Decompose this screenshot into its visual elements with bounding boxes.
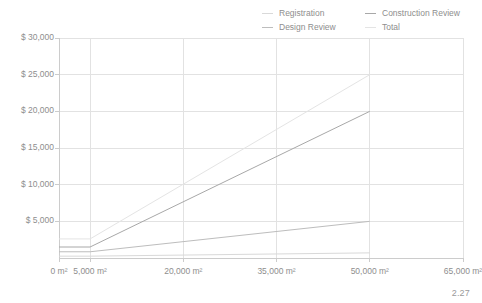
- x-tick-label: 50,000 m²: [351, 267, 389, 276]
- footer-note: 2.27: [452, 288, 470, 298]
- x-tick-label: 0 m²: [51, 267, 68, 276]
- x-tick-label: 5,000 m²: [73, 267, 107, 276]
- x-tick-label: 65,000 m²: [444, 267, 482, 276]
- x-tick-label: 35,000 m²: [257, 267, 295, 276]
- x-tick-label: 20,000 m²: [164, 267, 202, 276]
